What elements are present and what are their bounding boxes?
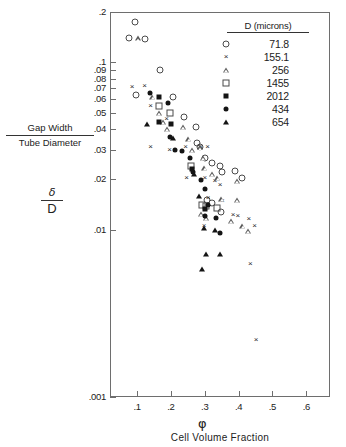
data-point	[165, 126, 171, 131]
legend-label: 1455	[237, 77, 289, 89]
data-point	[199, 202, 206, 209]
data-point	[217, 182, 223, 188]
data-point	[197, 145, 203, 150]
data-point	[157, 120, 162, 125]
data-point	[169, 94, 176, 101]
data-point	[202, 175, 208, 181]
legend-title: D (microns)	[227, 20, 309, 33]
data-point	[187, 163, 194, 170]
y-axis-title: Gap Width Tube Diameter	[4, 122, 96, 149]
data-point	[203, 197, 210, 204]
y-axis-symbol: δ D	[32, 186, 72, 215]
legend-marker-open-triangle	[215, 63, 237, 76]
data-point	[167, 134, 172, 139]
data-point	[212, 227, 218, 232]
x-axis-tick-label: .2	[159, 401, 183, 412]
data-point	[231, 167, 238, 174]
y-axis-tick-label: .02	[62, 173, 106, 184]
data-point	[199, 267, 205, 272]
data-point	[202, 214, 207, 219]
data-point	[208, 199, 215, 206]
y-axis-symbol-denominator: D	[32, 202, 72, 215]
data-point	[205, 195, 211, 201]
data-point	[230, 212, 236, 218]
data-point	[234, 198, 240, 203]
y-axis-tick-label: .1	[62, 56, 106, 67]
x-axis-title: Cell Volume Fraction	[110, 432, 330, 443]
data-point	[183, 175, 189, 181]
x-axis-tick-label: .1	[125, 401, 149, 412]
data-point	[196, 194, 202, 199]
legend-item-654: 654	[215, 115, 323, 128]
y-axis-symbol-numerator: δ	[32, 186, 72, 199]
data-point	[190, 166, 195, 171]
data-point	[217, 208, 224, 215]
legend: D (microns) 71.8155.125614552012434654	[215, 20, 323, 128]
data-point	[209, 160, 216, 167]
x-axis-tick-label: .6	[294, 401, 318, 412]
data-point-cross	[223, 54, 229, 60]
data-point	[148, 103, 154, 109]
data-point	[206, 203, 211, 208]
y-axis-tick-label: .05	[62, 107, 106, 118]
data-point	[167, 109, 174, 116]
legend-marker-filled-square	[215, 89, 237, 102]
data-point	[168, 121, 173, 126]
legend-marker-open-circle	[215, 37, 237, 50]
data-point-filled-triangle	[223, 120, 229, 125]
data-point	[164, 116, 170, 122]
data-point	[160, 120, 166, 125]
data-point	[141, 36, 148, 43]
data-point-open-triangle	[223, 68, 229, 73]
data-point	[191, 172, 197, 177]
x-axis-tick-label: .4	[227, 401, 251, 412]
y-axis-tick-label: .001	[62, 391, 106, 402]
legend-label: 654	[237, 116, 289, 128]
legend-marker-cross	[215, 50, 237, 63]
data-point	[202, 187, 207, 192]
x-axis-symbol: φ	[198, 416, 207, 431]
data-point	[201, 154, 208, 161]
data-point	[201, 223, 207, 229]
data-point	[218, 231, 223, 236]
data-point	[213, 215, 218, 220]
data-point	[157, 67, 164, 74]
data-point	[167, 147, 173, 153]
data-point	[240, 224, 246, 229]
legend-label: 2012	[237, 90, 289, 102]
data-point	[165, 101, 170, 106]
legend-marker-open-square	[215, 76, 237, 89]
data-point	[144, 121, 150, 126]
data-point	[142, 83, 148, 89]
data-point	[217, 163, 224, 170]
data-point	[133, 91, 140, 98]
data-point	[228, 218, 234, 223]
legend-label: 256	[237, 64, 289, 76]
data-point	[201, 225, 207, 230]
data-point	[202, 206, 207, 211]
data-point	[150, 95, 156, 100]
data-point	[209, 172, 215, 177]
data-point	[219, 198, 225, 204]
data-point	[135, 36, 141, 41]
data-point-filled-square	[224, 94, 229, 99]
scatter-plot-figure: .001.01.02.03.04.05.06.07.08.09.1.2 .1.2…	[0, 0, 346, 447]
data-point	[212, 178, 218, 184]
data-point	[253, 337, 259, 343]
y-axis-tick	[110, 397, 116, 398]
data-point	[156, 102, 163, 109]
x-axis-tick-label: .3	[193, 401, 217, 412]
legend-item-155.1: 155.1	[215, 50, 323, 63]
y-axis-tick-label: .2	[62, 6, 106, 17]
data-point	[203, 215, 209, 220]
data-point	[182, 144, 188, 150]
data-point	[199, 178, 204, 183]
data-point-filled-circle	[224, 107, 229, 112]
legend-marker-filled-circle	[215, 102, 237, 115]
data-point	[193, 139, 200, 146]
data-point	[191, 169, 196, 174]
legend-rows: 71.8155.125614552012434654	[215, 37, 323, 128]
data-point	[204, 144, 210, 150]
legend-item-71.8: 71.8	[215, 37, 323, 50]
data-point	[235, 213, 241, 219]
